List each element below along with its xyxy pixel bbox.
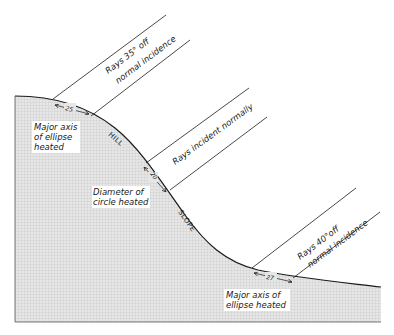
- rays-normal-label: Rays incident normally: [170, 101, 255, 167]
- rays-35-area-label-1: Major axis: [34, 122, 78, 132]
- rays-normal-area-label-2: circle heated: [93, 197, 149, 207]
- rays-35-area-label-2: of ellipse: [34, 132, 72, 142]
- rays-normal-area-label-1: Diameter of: [93, 187, 146, 197]
- rays-40-area-label-1: Major axis of: [226, 290, 282, 300]
- ray-line: [146, 88, 249, 163]
- rays-40-measure: 27: [266, 273, 275, 281]
- rays-40-area-label-2: ellipse heated: [226, 300, 286, 310]
- hill-slope-diagram: Rays 35° off normal incidence 25 Major a…: [0, 0, 394, 335]
- rays-35-area-label-3: heated: [34, 142, 64, 152]
